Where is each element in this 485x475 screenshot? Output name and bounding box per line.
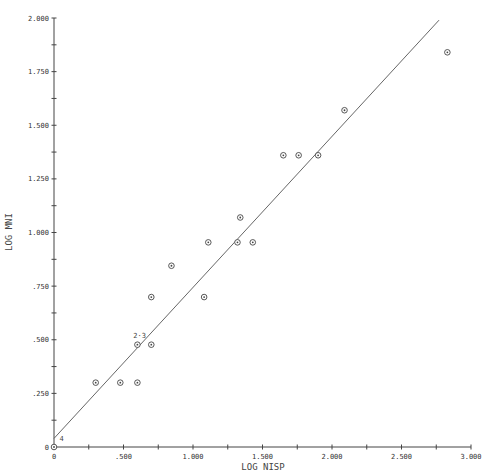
data-point bbox=[342, 107, 348, 113]
data-point bbox=[118, 380, 124, 386]
y-tick-label: .750 bbox=[32, 283, 49, 291]
y-tick-label: 0 bbox=[45, 444, 49, 452]
data-point bbox=[250, 240, 256, 246]
axis-ticks: 0.5001.0001.5002.0002.5003.0000.250.500.… bbox=[28, 15, 482, 462]
dot-marker bbox=[203, 296, 205, 298]
x-tick-label: 3.000 bbox=[460, 453, 481, 461]
data-point bbox=[149, 294, 155, 300]
y-tick-label: 1.000 bbox=[28, 229, 49, 237]
data-point bbox=[169, 263, 175, 269]
data-point bbox=[205, 240, 211, 246]
point-annotation: 2·3 bbox=[133, 332, 146, 340]
dot-marker bbox=[150, 296, 152, 298]
y-tick-label: 1.750 bbox=[28, 68, 49, 76]
data-point bbox=[51, 444, 57, 450]
dot-marker bbox=[446, 51, 448, 53]
data-point bbox=[237, 215, 243, 221]
regression-line bbox=[54, 20, 439, 438]
y-axis-title: LOG MNI bbox=[4, 213, 14, 251]
dot-marker bbox=[137, 344, 139, 346]
dot-marker bbox=[171, 265, 173, 267]
dot-marker bbox=[119, 382, 121, 384]
point-annotation: 4 bbox=[60, 435, 64, 443]
dot-marker bbox=[298, 154, 300, 156]
data-point bbox=[235, 240, 241, 246]
data-point bbox=[445, 50, 451, 56]
data-point bbox=[135, 380, 141, 386]
dot-marker bbox=[237, 241, 239, 243]
scatter-chart: 0.5001.0001.5002.0002.5003.0000.250.500.… bbox=[0, 0, 485, 475]
dot-marker bbox=[344, 109, 346, 111]
x-tick-label: 0 bbox=[52, 453, 56, 461]
data-point bbox=[296, 152, 302, 158]
data-point bbox=[149, 342, 155, 348]
fit-line bbox=[54, 20, 439, 438]
dot-marker bbox=[282, 154, 284, 156]
data-point bbox=[281, 152, 287, 158]
x-tick-label: 1.000 bbox=[182, 453, 203, 461]
data-point bbox=[201, 294, 207, 300]
y-tick-label: 1.250 bbox=[28, 175, 49, 183]
annotations: 2·34 bbox=[60, 332, 146, 443]
x-tick-label: 2.000 bbox=[321, 453, 342, 461]
y-tick-label: .250 bbox=[32, 390, 49, 398]
y-tick-label: .500 bbox=[32, 336, 49, 344]
data-point bbox=[315, 152, 321, 158]
x-axis-title: LOG NISP bbox=[241, 462, 285, 472]
x-tick-label: 2.500 bbox=[391, 453, 412, 461]
dot-marker bbox=[95, 382, 97, 384]
dot-marker bbox=[207, 241, 209, 243]
y-tick-label: 1.500 bbox=[28, 122, 49, 130]
dot-marker bbox=[239, 217, 241, 219]
x-tick-label: .500 bbox=[115, 453, 132, 461]
data-point bbox=[93, 380, 99, 386]
dot-marker bbox=[150, 344, 152, 346]
data-point bbox=[135, 342, 141, 348]
x-tick-label: 1.500 bbox=[252, 453, 273, 461]
dot-marker bbox=[317, 154, 319, 156]
dot-marker bbox=[53, 446, 55, 448]
y-tick-label: 2.000 bbox=[28, 15, 49, 23]
data-points bbox=[51, 50, 450, 450]
dot-marker bbox=[137, 382, 139, 384]
dot-marker bbox=[252, 241, 254, 243]
axes bbox=[54, 18, 471, 447]
